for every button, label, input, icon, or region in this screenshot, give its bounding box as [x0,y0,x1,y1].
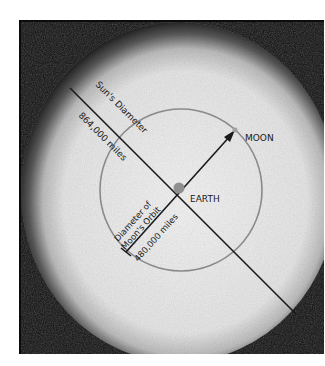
diagram-overlay: Sun's Diameter 864,000 miles Diameter of… [0,0,325,366]
sun-diameter-value: 864,000 miles [77,110,130,163]
sun-diameter-line [70,88,296,314]
earth-label: EARTH [190,194,220,204]
moon-dot-icon [233,128,238,133]
earth-dot-icon [174,183,185,194]
moon-label: MOON [245,133,274,143]
sun-diameter-label: Sun's Diameter [94,79,150,135]
